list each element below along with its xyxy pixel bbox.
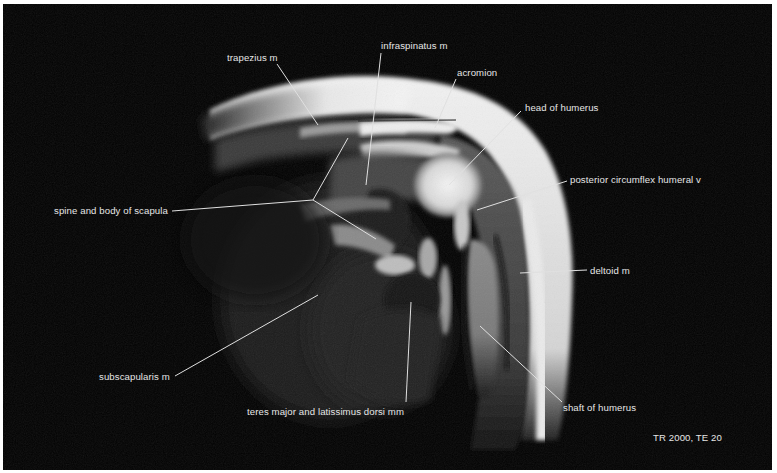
label-infraspinatus: infraspinatus m: [381, 40, 448, 51]
label-spine-scapula: spine and body of scapula: [54, 205, 168, 216]
mri-figure-frame: [3, 4, 772, 470]
label-subscapularis: subscapularis m: [99, 371, 170, 382]
label-trapezius: trapezius m: [227, 52, 278, 63]
label-deltoid: deltoid m: [590, 265, 630, 276]
sequence-parameters: TR 2000, TE 20: [653, 432, 722, 443]
label-head-of-humerus: head of humerus: [525, 102, 599, 113]
label-posterior-circumflex: posterior circumflex humeral v: [570, 174, 701, 185]
label-teres-latissimus: teres major and latissimus dorsi mm: [247, 406, 404, 417]
label-shaft-humerus: shaft of humerus: [563, 402, 636, 413]
label-acromion: acromion: [457, 67, 497, 78]
shoulder-mri-image: [3, 4, 772, 470]
